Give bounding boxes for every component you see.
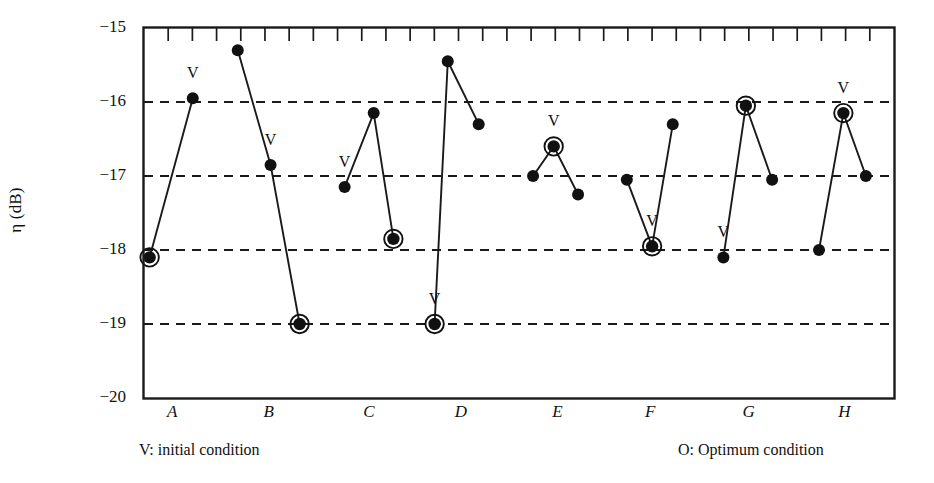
data-point-optimum — [740, 100, 752, 112]
x-tick-label-f: F — [635, 402, 665, 422]
y-axis-label: η (dB) — [6, 150, 26, 270]
data-point — [621, 174, 633, 186]
y-tick-label: −18 — [78, 239, 126, 259]
series-line-b — [238, 50, 300, 324]
data-point — [527, 170, 539, 182]
data-point-optimum — [428, 318, 440, 330]
data-point-optimum — [547, 140, 559, 152]
data-point — [232, 44, 244, 56]
data-series-group — [140, 44, 871, 333]
y-tick-label: −20 — [78, 387, 126, 407]
plot-frame — [144, 28, 895, 399]
data-point — [717, 251, 729, 263]
data-point — [368, 107, 380, 119]
top-axis-ticks — [168, 28, 870, 41]
x-tick-label-d: D — [446, 402, 476, 422]
series-line-a — [150, 98, 193, 257]
v-annotation: V — [544, 112, 564, 130]
data-point-optimum — [143, 251, 155, 263]
series-line-d — [435, 61, 479, 324]
data-point — [766, 174, 778, 186]
v-annotation: V — [425, 290, 445, 308]
legend-optimum-condition: O: Optimum condition — [678, 441, 824, 459]
v-annotation: V — [183, 64, 203, 82]
data-point — [860, 170, 872, 182]
data-point-optimum — [837, 107, 849, 119]
v-annotation: V — [642, 212, 662, 230]
x-tick-label-e: E — [542, 402, 572, 422]
data-point — [572, 189, 584, 201]
y-tick-label: −16 — [78, 91, 126, 111]
x-tick-label-c: C — [354, 402, 384, 422]
data-point-optimum — [646, 240, 658, 252]
series-line-h — [819, 113, 866, 250]
data-point — [473, 118, 485, 130]
v-annotation: V — [335, 153, 355, 171]
v-annotation: V — [261, 131, 281, 149]
data-point-optimum — [387, 233, 399, 245]
data-point — [667, 118, 679, 130]
data-point-optimum — [293, 318, 305, 330]
data-point — [442, 55, 454, 67]
series-line-e — [533, 146, 578, 194]
x-tick-label-g: G — [734, 402, 764, 422]
chart-figure: η (dB) −15−16−17−18−19−20 ABCDEFGH VVVVV… — [0, 0, 934, 483]
data-point — [339, 181, 351, 193]
y-tick-label: −19 — [78, 313, 126, 333]
x-tick-label-b: B — [254, 402, 284, 422]
legend-initial-condition: V: initial condition — [139, 441, 260, 459]
data-point — [265, 159, 277, 171]
y-tick-label: −17 — [78, 165, 126, 185]
data-point — [813, 244, 825, 256]
v-annotation: V — [713, 223, 733, 241]
y-tick-label: −15 — [78, 17, 126, 37]
v-annotation: V — [833, 79, 853, 97]
gridlines-group — [144, 102, 894, 324]
data-point — [187, 92, 199, 104]
x-tick-label-h: H — [829, 402, 859, 422]
x-tick-label-a: A — [157, 402, 187, 422]
